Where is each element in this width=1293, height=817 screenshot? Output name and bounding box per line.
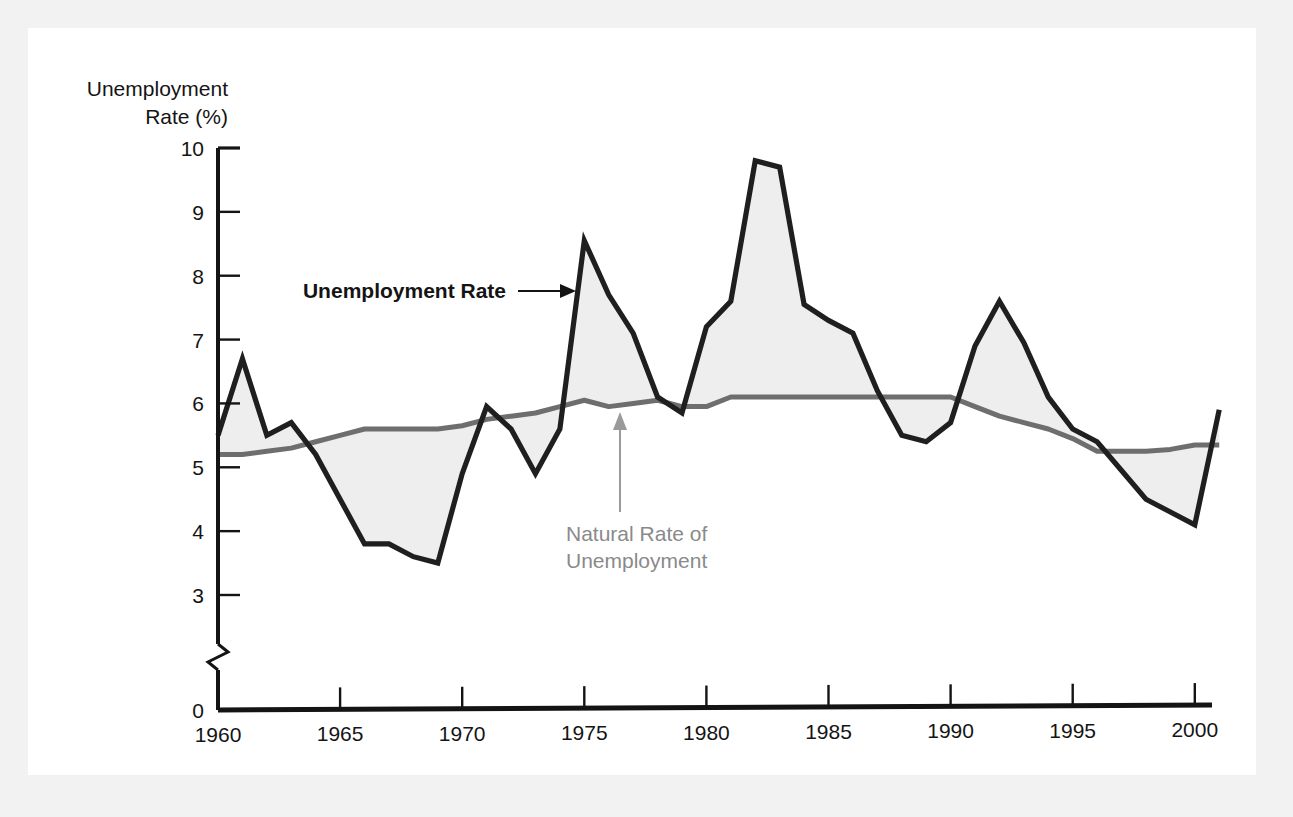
annotation-natural-rate: Natural Rate of Unemployment xyxy=(566,412,707,572)
x-tick-label: 1960 xyxy=(195,723,242,746)
x-tick-label: 1965 xyxy=(317,722,364,745)
y-axis-break xyxy=(208,644,228,670)
y-tick-label: 4 xyxy=(192,520,204,543)
x-tick-label: 1995 xyxy=(1049,719,1096,742)
annotation-unemployment-rate-arrowhead xyxy=(560,284,576,298)
y-axis-title-line2: Rate (%) xyxy=(145,105,228,128)
x-tick-label: 1980 xyxy=(683,721,730,744)
series-gap-fill xyxy=(218,161,1219,563)
annotation-natural-rate-arrowhead xyxy=(613,412,627,430)
unemployment-chart: 1098765430 19601965197019751980198519901… xyxy=(0,0,1293,817)
y-tick-label: 8 xyxy=(192,265,204,288)
annotation-unemployment-rate: Unemployment Rate xyxy=(303,279,576,302)
y-tick-label: 6 xyxy=(192,392,204,415)
annotation-natural-rate-label-line1: Natural Rate of xyxy=(566,522,707,545)
gap-fill-group xyxy=(218,161,1219,563)
y-tick-label: 0 xyxy=(192,699,204,722)
y-tick-label: 5 xyxy=(192,456,204,479)
x-tick-label: 1990 xyxy=(927,719,974,742)
x-tick-label: 2000 xyxy=(1171,718,1218,741)
x-tick-label: 1985 xyxy=(805,720,852,743)
y-axis-title-line1: Unemployment xyxy=(87,77,228,100)
y-tick-label: 3 xyxy=(192,584,204,607)
annotation-unemployment-rate-label: Unemployment Rate xyxy=(303,279,506,302)
x-axis xyxy=(218,705,1212,710)
x-tick-group: 196019651970197519801985199019952000 xyxy=(195,683,1219,746)
x-tick-label: 1975 xyxy=(561,721,608,744)
figure-frame: 1098765430 19601965197019751980198519901… xyxy=(0,0,1293,817)
y-tick-label: 9 xyxy=(192,201,204,224)
y-tick-label: 10 xyxy=(181,137,204,160)
y-tick-label: 7 xyxy=(192,329,204,352)
x-axis-line xyxy=(218,705,1212,710)
annotation-natural-rate-label-line2: Unemployment xyxy=(566,549,707,572)
x-tick-label: 1970 xyxy=(439,722,486,745)
